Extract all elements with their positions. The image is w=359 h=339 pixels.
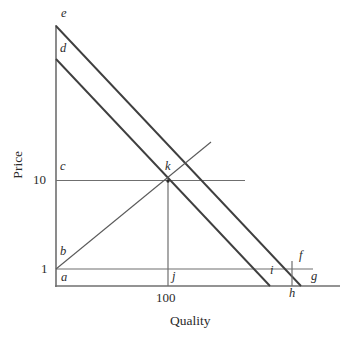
point-label-k: k: [165, 160, 171, 173]
point-marker-k: [166, 179, 169, 182]
point-label-g: g: [311, 270, 317, 283]
point-label-a: a: [61, 271, 67, 284]
point-label-b: b: [60, 245, 66, 258]
supply-line-b-through-k: [56, 142, 211, 269]
diagram-canvas: e d c b a k j i f g h 10 1 100 Price Qua…: [0, 0, 359, 339]
point-label-f: f: [299, 249, 302, 262]
y-axis-title: Price: [11, 143, 25, 187]
demand-line-lower-d-i: [56, 59, 270, 286]
point-label-j: j: [172, 270, 175, 283]
point-label-i: i: [270, 264, 273, 277]
point-label-h: h: [289, 287, 295, 300]
x-tick-label-100: 100: [156, 291, 176, 304]
y-tick-label-10: 10: [33, 173, 46, 186]
point-label-d: d: [60, 42, 66, 55]
y-tick-label-1: 1: [41, 262, 48, 275]
point-label-c: c: [60, 160, 66, 173]
demand-line-upper-e-g: [56, 26, 301, 286]
x-axis-title: Quality: [170, 314, 211, 328]
point-label-e: e: [61, 7, 67, 20]
plot-lines-group: [0, 0, 359, 339]
